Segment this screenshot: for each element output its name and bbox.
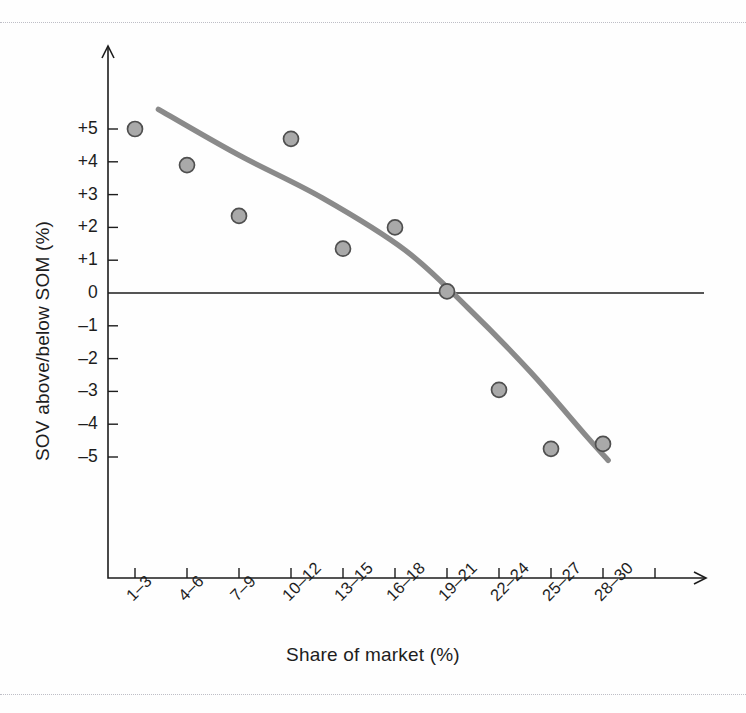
- y-tick-label-4: +1: [48, 251, 98, 269]
- data-point-1[interactable]: [180, 158, 195, 173]
- x-axis-title: Share of market (%): [0, 644, 746, 666]
- trend-line: [158, 109, 608, 460]
- y-tick-label-8: –3: [48, 382, 98, 400]
- y-tick-label-0: +5: [48, 120, 98, 138]
- y-tick-label-7: –2: [48, 350, 98, 368]
- y-tick-label-6: –1: [48, 317, 98, 335]
- data-point-4[interactable]: [336, 241, 351, 256]
- data-points-group: [128, 122, 611, 457]
- plot-canvas: [0, 0, 746, 713]
- data-point-5[interactable]: [388, 220, 403, 235]
- axis-lines: [108, 46, 706, 578]
- y-tick-label-5: 0: [48, 284, 98, 302]
- y-tick-label-1: +4: [48, 153, 98, 171]
- tick-marks-group: [108, 129, 655, 578]
- data-point-3[interactable]: [284, 131, 299, 146]
- data-point-9[interactable]: [596, 436, 611, 451]
- y-tick-label-10: –5: [48, 448, 98, 466]
- data-point-7[interactable]: [492, 382, 507, 397]
- y-axis-title: SOV above/below SOM (%): [32, 151, 54, 531]
- data-point-2[interactable]: [232, 208, 247, 223]
- trend-line-group: [158, 109, 608, 460]
- y-tick-label-2: +3: [48, 186, 98, 204]
- data-point-6[interactable]: [440, 284, 455, 299]
- chart-figure: +5+4+3+2+10–1–2–3–4–5 1–34–67–910–1213–1…: [0, 0, 746, 713]
- data-point-0[interactable]: [128, 122, 143, 137]
- data-point-8[interactable]: [544, 441, 559, 456]
- y-tick-label-3: +2: [48, 218, 98, 236]
- y-tick-label-9: –4: [48, 415, 98, 433]
